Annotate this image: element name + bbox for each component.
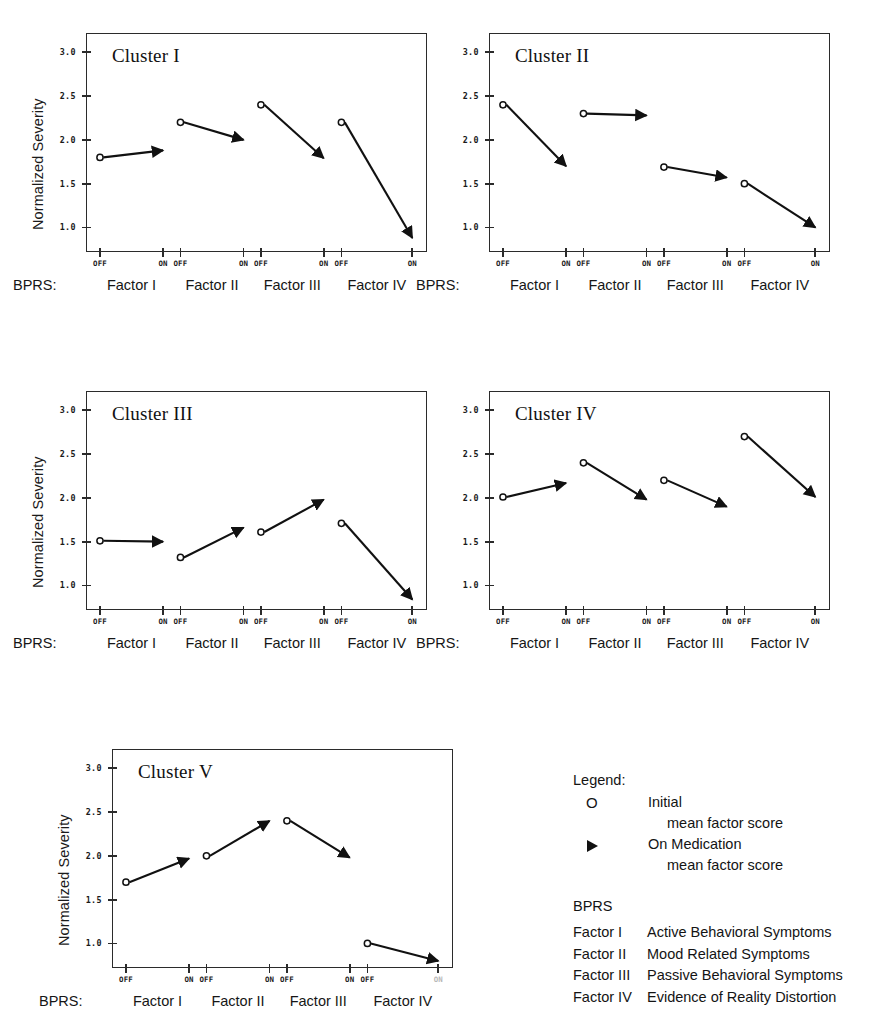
x-tick-label-4: OFF [648,617,680,626]
x-tick-label-4: OFF [245,259,277,268]
legend-bprs-factor-name-1: Factor I [573,924,622,940]
x-tick-label-4: OFF [648,259,680,268]
x-tick-7 [814,606,816,615]
y-tick-label-3: 1.5 [70,895,102,905]
y-tick-label-3: 1.5 [44,179,76,189]
initial-marker-icon: O [586,794,598,811]
y-tick-label-1: 2.5 [447,91,479,101]
y-tick-4 [82,585,91,587]
y-tick-0 [108,767,117,769]
factor-band-label-4: Factor IV [725,635,835,651]
y-tick-label-4: 1.0 [447,580,479,590]
x-tick-5 [323,248,325,257]
y-tick-label-4: 1.0 [70,938,102,948]
x-tick-7 [437,964,439,973]
x-tick-3 [243,606,245,615]
y-tick-label-3: 1.5 [447,537,479,547]
y-tick-3 [485,541,494,543]
x-tick-2 [180,606,182,615]
cluster-title-2: Cluster II [515,45,589,67]
y-tick-0 [82,409,91,411]
x-tick-3 [269,964,271,973]
y-tick-label-1: 2.5 [447,449,479,459]
x-tick-label-0: OFF [84,617,116,626]
x-tick-4 [663,248,665,257]
y-tick-3 [108,899,117,901]
bprs-axis-prefix-2: BPRS: [416,277,460,293]
x-tick-label-0: OFF [487,617,519,626]
y-tick-3 [82,183,91,185]
x-tick-label-6: OFF [728,259,760,268]
x-tick-2 [180,248,182,257]
x-tick-5 [349,964,351,973]
y-tick-4 [82,227,91,229]
y-tick-4 [108,943,117,945]
x-tick-label-7: ON [799,617,831,626]
y-tick-3 [485,183,494,185]
y-tick-0 [485,409,494,411]
y-tick-label-2: 2.0 [70,851,102,861]
x-tick-0 [99,606,101,615]
x-tick-6 [341,248,343,257]
y-tick-label-0: 3.0 [70,763,102,773]
x-tick-label-4: OFF [245,617,277,626]
y-tick-label-3: 1.5 [447,179,479,189]
x-tick-label-2: OFF [164,617,196,626]
y-tick-label-4: 1.0 [44,580,76,590]
x-tick-label-4: OFF [271,975,303,984]
y-tick-label-2: 2.0 [44,493,76,503]
legend-initial-label: Initial [648,794,682,810]
y-axis-title: Normalized Severity [56,814,72,946]
x-tick-6 [367,964,369,973]
legend-bprs-heading: BPRS [573,898,613,914]
x-tick-label-6: OFF [351,975,383,984]
y-tick-4 [485,585,494,587]
legend-bprs-factor-name-4: Factor IV [573,989,632,1005]
x-tick-1 [565,606,567,615]
x-tick-1 [188,964,190,973]
legend-bprs-factor-desc-4: Evidence of Reality Distortion [647,989,836,1005]
x-tick-4 [260,606,262,615]
y-tick-label-4: 1.0 [447,222,479,232]
x-tick-7 [814,248,816,257]
legend-bprs-factor-name-3: Factor III [573,967,630,983]
y-tick-label-1: 2.5 [70,807,102,817]
y-tick-label-1: 2.5 [44,449,76,459]
x-tick-1 [565,248,567,257]
x-tick-6 [744,248,746,257]
x-tick-label-6: OFF [728,617,760,626]
y-tick-label-3: 1.5 [44,537,76,547]
x-tick-label-6: OFF [325,617,357,626]
cluster-title-4: Cluster IV [515,403,597,425]
legend-bprs-factor-desc-2: Mood Related Symptoms [647,946,810,962]
x-tick-label-0: OFF [487,259,519,268]
x-tick-3 [243,248,245,257]
x-tick-5 [726,606,728,615]
x-tick-4 [663,606,665,615]
cluster-title-3: Cluster III [112,403,193,425]
y-tick-2 [82,497,91,499]
legend-medication-label: On Medication [648,836,742,852]
x-tick-0 [99,248,101,257]
x-tick-1 [162,248,164,257]
x-tick-0 [502,248,504,257]
x-tick-0 [125,964,127,973]
y-axis-title: Normalized Severity [30,98,46,230]
y-tick-label-1: 2.5 [44,91,76,101]
x-tick-7 [411,248,413,257]
legend-bprs-factor-desc-1: Active Behavioral Symptoms [647,924,832,940]
triangle-right-icon [587,840,598,852]
x-tick-label-7: ON [422,975,454,984]
x-tick-3 [646,248,648,257]
x-tick-6 [744,606,746,615]
bprs-axis-prefix-5: BPRS: [39,993,83,1009]
legend-medication-sublabel: mean factor score [667,857,783,873]
y-tick-1 [82,453,91,455]
y-tick-label-0: 3.0 [447,47,479,57]
x-tick-7 [411,606,413,615]
x-tick-2 [583,606,585,615]
y-tick-label-2: 2.0 [447,135,479,145]
x-tick-label-7: ON [396,259,428,268]
y-tick-label-2: 2.0 [447,493,479,503]
x-tick-1 [162,606,164,615]
